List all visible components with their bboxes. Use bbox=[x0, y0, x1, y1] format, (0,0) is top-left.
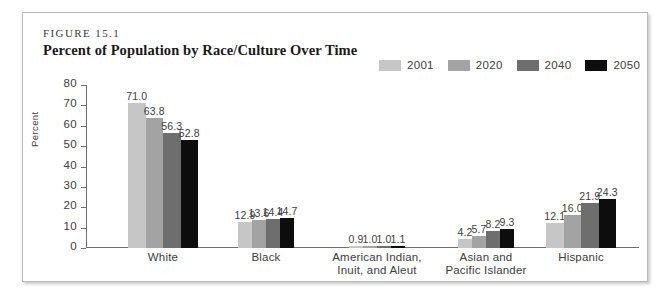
bar-rect bbox=[252, 220, 266, 248]
x-axis-category-line: Hispanic bbox=[558, 251, 604, 264]
bar-rect bbox=[280, 218, 294, 248]
bar-value-label: 24.3 bbox=[597, 186, 618, 198]
legend-item-2001: 2001 bbox=[379, 59, 434, 71]
y-axis-tick-mark bbox=[81, 207, 86, 208]
bar-rect bbox=[391, 246, 405, 248]
bar-value-label: 63.8 bbox=[144, 105, 165, 117]
bar-rect bbox=[599, 199, 617, 249]
bar: 16.0 bbox=[564, 215, 582, 248]
bar-rect bbox=[564, 215, 582, 248]
bar: 14.7 bbox=[280, 218, 294, 248]
y-axis-title: Percent bbox=[29, 111, 40, 147]
bar: 21.9 bbox=[581, 203, 599, 248]
bar: 13.6 bbox=[252, 220, 266, 248]
bar-value-label: 8.2 bbox=[485, 218, 500, 230]
bar-rect bbox=[458, 239, 472, 248]
x-axis-category-line: Asian and bbox=[445, 251, 526, 264]
bar-value-label: 5.7 bbox=[471, 223, 486, 235]
bar: 1.0 bbox=[363, 246, 377, 248]
bar-rect bbox=[146, 118, 164, 248]
bar: 12.9 bbox=[238, 222, 252, 248]
bar: 71.0 bbox=[128, 103, 146, 248]
x-axis-category-label: White bbox=[148, 251, 178, 264]
bar: 52.8 bbox=[181, 140, 199, 248]
legend-item-2020: 2020 bbox=[448, 59, 503, 71]
bar-rect bbox=[500, 229, 514, 248]
bar-rect bbox=[349, 246, 363, 248]
legend-label-2040: 2040 bbox=[545, 59, 572, 71]
chart-legend: 2001202020402050 bbox=[379, 59, 640, 71]
legend-swatch-2040 bbox=[517, 60, 539, 71]
bar: 24.3 bbox=[599, 199, 617, 249]
bar: 8.2 bbox=[486, 231, 500, 248]
chart-plot-area: Percent 01020304050607080 71.063.856.352… bbox=[86, 85, 639, 248]
y-axis-tick-label: 80 bbox=[53, 77, 77, 89]
bar-value-label: 16.0 bbox=[562, 202, 583, 214]
x-axis-category-line: Inuit, and Aleut bbox=[332, 264, 422, 277]
legend-label-2001: 2001 bbox=[407, 59, 434, 71]
bar-rect bbox=[377, 246, 391, 248]
bar-value-label: 1.1 bbox=[390, 233, 405, 245]
x-axis-category-line: Black bbox=[251, 251, 280, 264]
x-axis-category-label: Asian andPacific Islander bbox=[445, 251, 526, 277]
legend-swatch-2050 bbox=[585, 60, 607, 71]
bar-group: 71.063.856.352.8White bbox=[128, 85, 198, 248]
y-axis-tick-label: 0 bbox=[53, 240, 77, 252]
bar-value-label: 1.0 bbox=[376, 233, 391, 245]
bar-rect bbox=[266, 219, 280, 248]
y-axis-tick-mark bbox=[81, 126, 86, 127]
bar-rect bbox=[163, 133, 181, 248]
figure-title: Percent of Population by Race/Culture Ov… bbox=[43, 42, 357, 59]
bar-group: 4.25.78.29.3Asian andPacific Islander bbox=[458, 85, 514, 248]
legend-item-2050: 2050 bbox=[585, 59, 640, 71]
bar: 5.7 bbox=[472, 236, 486, 248]
y-axis-line bbox=[86, 85, 87, 248]
bar-rect bbox=[238, 222, 252, 248]
legend-item-2040: 2040 bbox=[517, 59, 572, 71]
bar: 12.1 bbox=[546, 223, 564, 248]
bar-rect bbox=[581, 203, 599, 248]
bar-value-label: 71.0 bbox=[126, 90, 147, 102]
bar: 56.3 bbox=[163, 133, 181, 248]
bar-rect bbox=[181, 140, 199, 248]
y-axis-tick-label: 20 bbox=[53, 199, 77, 211]
legend-swatch-2020 bbox=[448, 60, 470, 71]
bar: 9.3 bbox=[500, 229, 514, 248]
bar: 1.1 bbox=[391, 246, 405, 248]
bar-group: 12.913.614.414.7Black bbox=[238, 85, 294, 248]
legend-label-2020: 2020 bbox=[476, 59, 503, 71]
bar-rect bbox=[128, 103, 146, 248]
legend-label-2050: 2050 bbox=[613, 59, 640, 71]
bar-value-label: 1.0 bbox=[362, 233, 377, 245]
figure-frame: FIGURE 15.1 Percent of Population by Rac… bbox=[22, 12, 648, 282]
bar: 0.9 bbox=[349, 246, 363, 248]
bar-value-label: 52.8 bbox=[179, 127, 200, 139]
y-axis-tick-label: 50 bbox=[53, 138, 77, 150]
x-axis-category-label: Black bbox=[251, 251, 280, 264]
bar: 1.0 bbox=[377, 246, 391, 248]
x-axis-category-line: White bbox=[148, 251, 178, 264]
bar-rect bbox=[546, 223, 564, 248]
x-axis-category-label: Hispanic bbox=[558, 251, 604, 264]
x-axis-category-label: American Indian,Inuit, and Aleut bbox=[332, 251, 422, 277]
bar: 63.8 bbox=[146, 118, 164, 248]
bar: 14.4 bbox=[266, 219, 280, 248]
bar-value-label: 14.7 bbox=[276, 205, 297, 217]
bar-rect bbox=[486, 231, 500, 248]
y-axis-tick-label: 30 bbox=[53, 179, 77, 191]
legend-swatch-2001 bbox=[379, 60, 401, 71]
y-axis-tick-label: 70 bbox=[53, 97, 77, 109]
x-axis-category-line: American Indian, bbox=[332, 251, 422, 264]
bar-group: 12.116.021.924.3Hispanic bbox=[546, 85, 616, 248]
bar: 4.2 bbox=[458, 239, 472, 248]
bar-value-label: 4.2 bbox=[457, 226, 472, 238]
bar-value-label: 0.9 bbox=[348, 233, 363, 245]
y-axis-tick-mark bbox=[81, 187, 86, 188]
bar-group: 0.91.01.01.1American Indian,Inuit, and A… bbox=[349, 85, 405, 248]
bar-rect bbox=[363, 246, 377, 248]
y-axis-tick-mark bbox=[81, 228, 86, 229]
figure-number: FIGURE 15.1 bbox=[43, 27, 120, 39]
bar-value-label: 9.3 bbox=[499, 216, 514, 228]
y-axis-tick-label: 60 bbox=[53, 118, 77, 130]
y-axis-tick-mark bbox=[81, 167, 86, 168]
